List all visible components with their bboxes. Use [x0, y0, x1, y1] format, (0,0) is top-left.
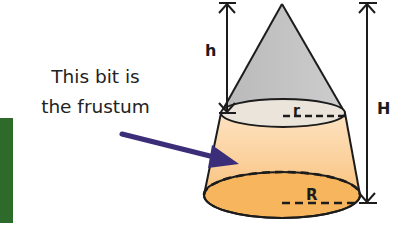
large-radius-label: R: [306, 186, 318, 204]
small-radius-label: r: [293, 102, 300, 118]
top-circle-ellipse: [221, 99, 345, 127]
large-height-dimension: [359, 3, 377, 203]
small-height-label: h: [205, 41, 216, 60]
frustum-diagram: r R h H: [0, 0, 413, 238]
removed-cone-top: [221, 4, 345, 127]
large-height-label: H: [377, 99, 390, 118]
